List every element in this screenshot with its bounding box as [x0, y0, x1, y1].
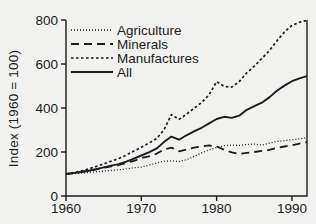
- legend-label-agriculture: Agriculture: [117, 23, 182, 38]
- y-tick-label-800: 800: [35, 13, 58, 28]
- x-tick-label-1990: 1990: [277, 201, 307, 216]
- x-tick-label-1980: 1980: [202, 201, 232, 216]
- axes-frame: [66, 20, 307, 196]
- y-tick-label-400: 400: [35, 101, 58, 116]
- y-tick-label-600: 600: [35, 57, 58, 72]
- x-tick-label-1970: 1970: [126, 201, 156, 216]
- series-line-all: [66, 76, 307, 174]
- legend-label-manufactures: Manufactures: [117, 51, 199, 66]
- series-line-minerals: [66, 142, 307, 174]
- legend-label-minerals: Minerals: [117, 37, 168, 52]
- chart-canvas: 02004006008001960197019801990Agriculture…: [0, 0, 316, 224]
- trade-index-figure: Index (1960 = 100) 020040060080019601970…: [0, 0, 316, 224]
- x-tick-label-1960: 1960: [51, 201, 81, 216]
- legend-label-all: All: [117, 65, 132, 80]
- y-tick-label-200: 200: [35, 145, 58, 160]
